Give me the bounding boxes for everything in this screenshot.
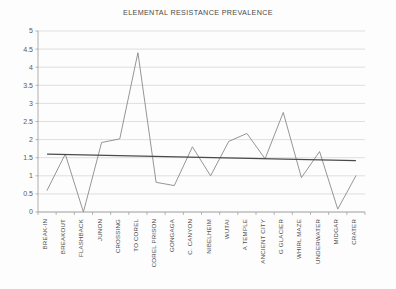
data-series-line bbox=[47, 53, 356, 212]
x-tick-label: GONGAGA bbox=[168, 218, 175, 252]
x-tick-label: COREL PRISON bbox=[150, 219, 157, 267]
x-tick-labels: BREAK-INBREAKOUTFLASHBACKJUNONCROSSINGTO… bbox=[41, 218, 357, 267]
x-tick-label: CROSSING bbox=[114, 219, 121, 253]
x-tick-label: C. CANYON bbox=[186, 219, 193, 255]
x-tick-label: NIBELHEIM bbox=[205, 219, 212, 254]
y-tick-labels: 00.511.522.533.544.55 bbox=[23, 27, 33, 215]
x-tick-label: A TEMPLE bbox=[241, 219, 248, 250]
x-tick-label: UNDERWATER bbox=[314, 219, 321, 264]
x-tick-label: ANCIENT CITY bbox=[259, 219, 266, 264]
x-tick-label: WUTAI bbox=[223, 219, 230, 239]
x-tick-label: CRATER bbox=[350, 219, 357, 245]
x-tick-label: JUNON bbox=[96, 219, 103, 241]
y-tick-label: 5 bbox=[29, 27, 33, 34]
y-tick-label: 2.5 bbox=[23, 118, 33, 125]
y-tick-label: 0 bbox=[29, 208, 33, 215]
chart-container: ELEMENTAL RESISTANCE PREVALENCE 00.511.5… bbox=[0, 0, 396, 289]
x-tick-label: WHIRL MAZE bbox=[295, 219, 302, 259]
x-tick-label: TO COREL bbox=[132, 219, 139, 252]
x-tick-label: G GLACIER bbox=[277, 219, 284, 254]
x-tick-label: FLASHBACK bbox=[77, 219, 84, 257]
y-tick-label: 2 bbox=[29, 136, 33, 143]
y-tick-label: 1.5 bbox=[23, 154, 33, 161]
series-polyline bbox=[47, 53, 356, 212]
line-chart-plot: 00.511.522.533.544.55 BREAK-INBREAKOUTFL… bbox=[0, 0, 396, 289]
trendline bbox=[47, 154, 356, 161]
y-tick-label: 0.5 bbox=[23, 190, 33, 197]
x-axis bbox=[38, 212, 365, 215]
x-tick-label: BREAKOUT bbox=[59, 219, 66, 254]
y-tick-label: 3 bbox=[29, 100, 33, 107]
gridlines-group bbox=[36, 31, 366, 212]
y-tick-label: 4.5 bbox=[23, 46, 33, 53]
x-tick-label: MIDGAR bbox=[332, 219, 339, 245]
trendline-segment bbox=[47, 154, 356, 161]
x-tick-label: BREAK-IN bbox=[41, 219, 48, 249]
y-tick-label: 3.5 bbox=[23, 82, 33, 89]
y-tick-label: 1 bbox=[29, 172, 33, 179]
y-tick-label: 4 bbox=[29, 64, 33, 71]
